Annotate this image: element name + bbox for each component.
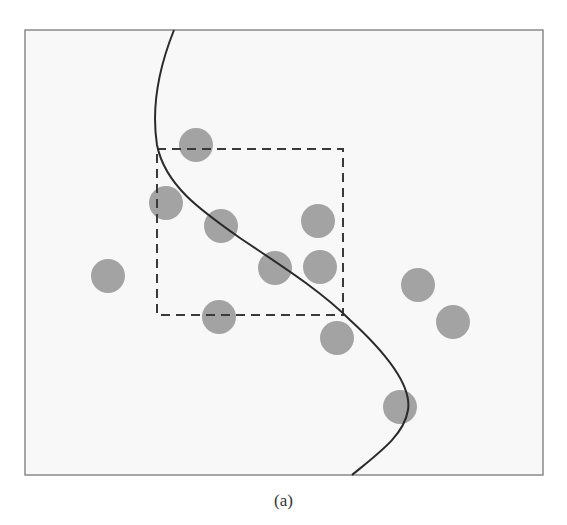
- data-point: [401, 268, 435, 302]
- data-point: [301, 204, 335, 238]
- data-point: [320, 321, 354, 355]
- data-point: [202, 300, 236, 334]
- data-point: [436, 305, 470, 339]
- diagram-figure: [0, 0, 567, 525]
- data-point: [303, 250, 337, 284]
- data-point: [91, 259, 125, 293]
- data-point: [383, 390, 417, 424]
- data-point: [149, 186, 183, 220]
- figure-caption: (a): [0, 491, 567, 511]
- data-point: [179, 128, 213, 162]
- plot-frame: [25, 30, 543, 475]
- data-point: [258, 251, 292, 285]
